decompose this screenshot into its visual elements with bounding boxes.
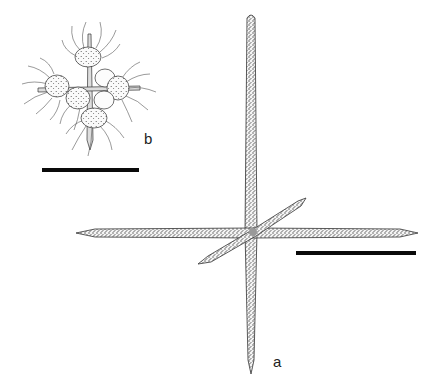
spicule-center bbox=[249, 228, 257, 236]
cell-body-bottom bbox=[81, 108, 107, 128]
spine-vertical bbox=[245, 15, 257, 374]
cell-body-left bbox=[45, 75, 69, 97]
scale-bar-a bbox=[296, 251, 416, 255]
panel-a-spicule bbox=[76, 15, 418, 374]
panel-label-b: b bbox=[144, 131, 152, 146]
panel-label-a: a bbox=[273, 354, 281, 369]
scale-bar-b bbox=[42, 168, 139, 172]
cell-body-center bbox=[66, 87, 90, 109]
figure-canvas bbox=[0, 0, 431, 387]
cell-body-top bbox=[75, 47, 101, 67]
panel-b-cell bbox=[22, 22, 156, 156]
cell-body-lower-right bbox=[94, 91, 114, 109]
